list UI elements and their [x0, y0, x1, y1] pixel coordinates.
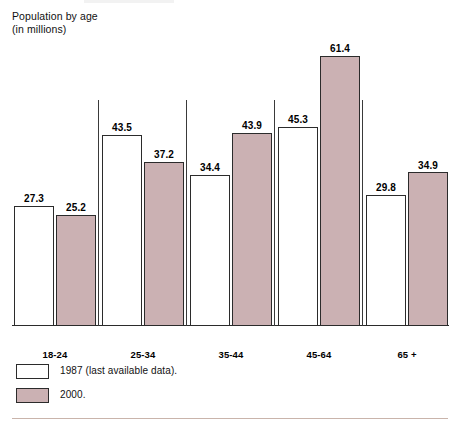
group-divider-4	[362, 100, 363, 326]
cropped-text-sliver	[84, 0, 174, 3]
bar-group-35-44: 34.4 43.9	[188, 18, 274, 326]
bar-value-1987-25-34: 43.5	[102, 122, 142, 133]
bar-2000-18-24[interactable]	[56, 215, 96, 326]
population-by-age-bar-chart: Population by age (in millions) 27.3 25.…	[0, 0, 461, 427]
bar-2000-45-64[interactable]	[320, 56, 360, 326]
legend-swatch-2000	[16, 388, 49, 403]
bar-value-2000-65-plus: 34.9	[408, 160, 448, 171]
x-tick-label-35-44: 35-44	[188, 349, 274, 360]
bar-2000-35-44[interactable]	[232, 133, 272, 326]
bar-value-1987-35-44: 34.4	[190, 162, 230, 173]
bar-2000-25-34[interactable]	[144, 162, 184, 326]
x-tick-label-45-64: 45-64	[276, 349, 362, 360]
plot-area: 27.3 25.2 43.5 37.2 34.4 43.9 45.3 61.4	[12, 18, 449, 326]
x-tick-label-18-24: 18-24	[12, 349, 98, 360]
legend-label-2000: 2000.	[60, 389, 86, 400]
bar-group-18-24: 27.3 25.2	[12, 18, 98, 326]
bar-1987-45-64[interactable]	[278, 127, 318, 326]
bar-1987-18-24[interactable]	[14, 206, 54, 326]
bar-value-2000-35-44: 43.9	[232, 120, 272, 131]
bar-2000-65-plus[interactable]	[408, 172, 448, 326]
bar-group-25-34: 43.5 37.2	[100, 18, 186, 326]
legend-item-1987[interactable]: 1987 (last available data).	[16, 362, 316, 386]
bar-value-2000-25-34: 37.2	[144, 149, 184, 160]
bar-value-1987-18-24: 27.3	[14, 193, 54, 204]
bar-group-65-plus: 29.8 34.9	[364, 18, 450, 326]
bar-1987-65-plus[interactable]	[366, 195, 406, 326]
bar-value-2000-18-24: 25.2	[56, 202, 96, 213]
legend-item-2000[interactable]: 2000.	[16, 386, 316, 410]
bottom-divider-rule	[12, 418, 448, 419]
group-divider-2	[186, 100, 187, 326]
bar-group-45-64: 45.3 61.4	[276, 18, 362, 326]
x-tick-label-65-plus: 65 +	[364, 349, 450, 360]
group-divider-1	[98, 100, 99, 326]
bar-1987-35-44[interactable]	[190, 175, 230, 326]
group-divider-3	[274, 100, 275, 326]
bar-value-1987-45-64: 45.3	[278, 114, 318, 125]
bar-value-2000-45-64: 61.4	[320, 43, 360, 54]
bar-value-1987-65-plus: 29.8	[366, 182, 406, 193]
legend-label-1987: 1987 (last available data).	[60, 365, 177, 376]
legend-swatch-1987	[16, 364, 49, 379]
bar-1987-25-34[interactable]	[102, 135, 142, 326]
x-tick-label-25-34: 25-34	[100, 349, 186, 360]
chart-legend: 1987 (last available data). 2000.	[16, 362, 316, 410]
